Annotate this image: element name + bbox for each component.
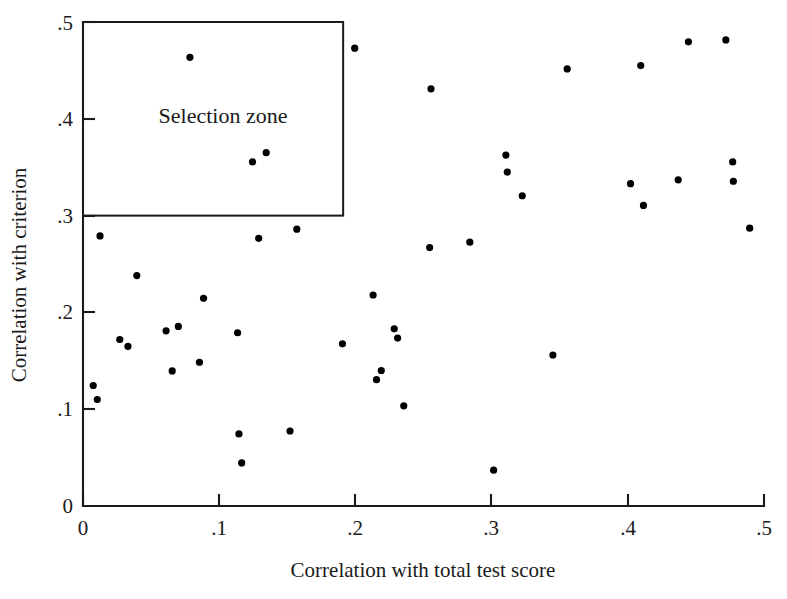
data-point [238,459,245,466]
data-point [373,376,380,383]
data-point [162,327,169,334]
data-point [200,295,207,302]
data-point [466,239,473,246]
data-point [637,62,644,69]
data-point [286,427,293,434]
y-tick-label-4: .4 [57,107,73,131]
y-axis-title: Correlation with criterion [7,167,31,382]
data-point [685,38,692,45]
data-point [564,65,571,72]
data-point [549,351,556,358]
x-tick-label-3: .3 [483,516,499,540]
y-tick-label-5: .5 [57,11,73,35]
selection-zone-label: Selection zone [159,103,288,128]
data-point [263,149,270,156]
data-point [94,396,101,403]
y-tick-label-0: 0 [63,494,74,518]
data-point [255,235,262,242]
x-axis-title: Correlation with total test score [291,558,556,582]
data-point [370,291,377,298]
data-point [90,382,97,389]
data-point [427,85,434,92]
data-point [249,158,256,165]
x-tick-labels: 0 .1 .2 .3 .4 .5 [78,516,772,540]
y-tick-label-2: .2 [57,300,73,324]
x-axis-ticks [83,494,764,506]
data-point [186,54,193,61]
data-point [235,430,242,437]
data-point [196,359,203,366]
data-point [426,244,433,251]
data-point [133,272,140,279]
data-point [400,402,407,409]
data-point [391,325,398,332]
y-tick-label-1: .1 [57,397,73,421]
y-tick-label-3: .3 [57,204,73,228]
x-tick-label-2: .2 [347,516,363,540]
x-tick-label-4: .4 [620,516,636,540]
data-point [234,329,241,336]
data-point [124,343,131,350]
data-point [640,202,647,209]
data-point [116,336,123,343]
data-point [293,226,300,233]
data-point [169,367,176,374]
data-point [730,178,737,185]
data-point [378,367,385,374]
y-axis-ticks [83,22,95,506]
data-point [339,340,346,347]
data-point [627,180,634,187]
data-point [351,45,358,52]
data-point [675,176,682,183]
data-point [490,467,497,474]
data-point [394,334,401,341]
data-point [504,168,511,175]
data-point [502,152,509,159]
data-point [175,323,182,330]
data-point [722,36,729,43]
x-tick-label-5: .5 [756,516,772,540]
x-tick-label-0: 0 [78,516,89,540]
data-point [96,232,103,239]
x-tick-label-1: .1 [211,516,227,540]
data-point [729,158,736,165]
data-point [519,192,526,199]
scatter-plot-figure: 0 .1 .2 .3 .4 .5 0 .1 .2 .3 .4 .5 Correl… [0,0,787,599]
plot-canvas: 0 .1 .2 .3 .4 .5 0 .1 .2 .3 .4 .5 Correl… [0,0,787,599]
y-tick-labels: 0 .1 .2 .3 .4 .5 [57,11,73,518]
data-point [746,225,753,232]
